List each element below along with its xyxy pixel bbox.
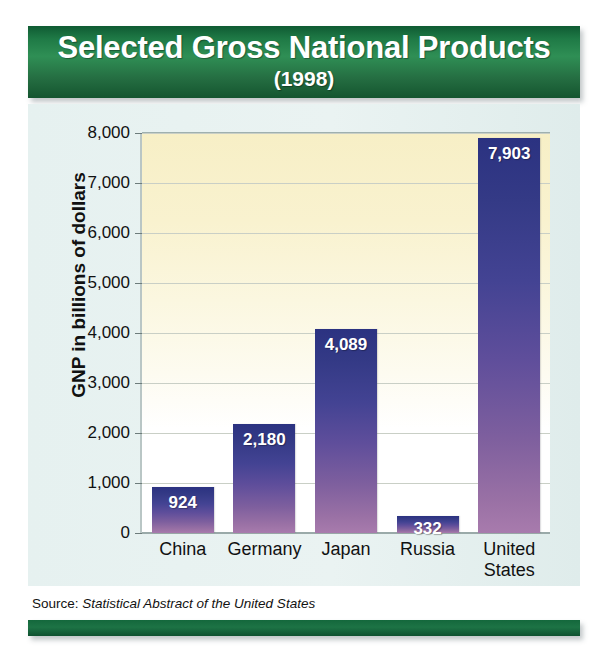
- y-axis-tick-label: 8,000: [87, 123, 130, 143]
- bar-value-label: 924: [152, 493, 214, 513]
- title-banner: Selected Gross National Products (1998): [28, 26, 580, 98]
- source-prefix: Source:: [32, 596, 82, 611]
- bar-value-label: 4,089: [315, 335, 377, 355]
- bar-value-label: 7,903: [478, 144, 540, 164]
- page-subtitle: (1998): [28, 66, 580, 92]
- y-axis-tick-label: 5,000: [87, 273, 130, 293]
- y-axis-tick-label: 4,000: [87, 323, 130, 343]
- bar-russia[interactable]: 332: [397, 516, 459, 533]
- bar-united-states[interactable]: 7,903: [478, 138, 540, 533]
- y-axis-tick: [135, 433, 142, 434]
- x-axis-label-line: United: [468, 539, 550, 560]
- y-axis-tick-label: 0: [121, 523, 130, 543]
- x-axis-label-line: Germany: [224, 539, 306, 560]
- chart-page: Selected Gross National Products (1998) …: [0, 0, 602, 659]
- x-axis-label-russia: Russia: [387, 539, 469, 560]
- page-title: Selected Gross National Products: [28, 29, 580, 67]
- bar-china[interactable]: 924: [152, 487, 214, 533]
- x-axis-label-line: Russia: [387, 539, 469, 560]
- y-axis-tick-label: 1,000: [87, 473, 130, 493]
- x-axis-label-japan: Japan: [305, 539, 387, 560]
- y-axis-tick: [135, 233, 142, 234]
- bar-value-label: 2,180: [233, 430, 295, 450]
- y-axis-tick-label: 2,000: [87, 423, 130, 443]
- source-note: Source: Statistical Abstract of the Unit…: [32, 596, 315, 611]
- bar-japan[interactable]: 4,089: [315, 329, 377, 533]
- y-axis-tick: [135, 483, 142, 484]
- plot-area: 01,0002,0003,0004,0005,0006,0007,0008,00…: [140, 133, 550, 533]
- y-axis-tick: [135, 333, 142, 334]
- y-axis-tick: [135, 383, 142, 384]
- x-axis-label-china: China: [142, 539, 224, 560]
- x-axis-label-line: Japan: [305, 539, 387, 560]
- gridline: [142, 133, 550, 134]
- bar-germany[interactable]: 2,180: [233, 424, 295, 533]
- bar-value-label: 332: [397, 519, 459, 539]
- chart-panel: GNP in billions of dollars 01,0002,0003,…: [28, 104, 580, 586]
- x-axis-label-germany: Germany: [224, 539, 306, 560]
- x-axis-label-united-states: UnitedStates: [468, 539, 550, 581]
- y-axis-tick-label: 6,000: [87, 223, 130, 243]
- y-axis-tick: [135, 133, 142, 134]
- y-axis-tick: [135, 283, 142, 284]
- y-axis-tick: [135, 183, 142, 184]
- source-publication: Statistical Abstract of the United State…: [82, 596, 315, 611]
- footer-bar: [28, 620, 580, 636]
- x-axis-label-line: China: [142, 539, 224, 560]
- y-axis-tick: [135, 533, 142, 534]
- y-axis-tick-label: 3,000: [87, 373, 130, 393]
- x-axis-label-line: States: [468, 560, 550, 581]
- y-axis-tick-label: 7,000: [87, 173, 130, 193]
